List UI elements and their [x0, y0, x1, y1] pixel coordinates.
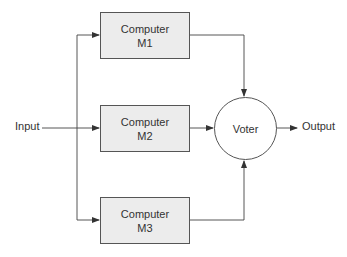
- computer-m2-box: Computer M2: [100, 105, 190, 152]
- computer-m3-line2: M3: [137, 221, 152, 235]
- computer-m1-line1: Computer: [121, 22, 169, 36]
- computer-m2-line2: M2: [137, 129, 152, 143]
- computer-m3-line1: Computer: [121, 207, 169, 221]
- computer-m1-line2: M1: [137, 36, 152, 50]
- computer-m1-box: Computer M1: [100, 12, 190, 59]
- voter-circle: Voter: [214, 97, 277, 160]
- output-label: Output: [302, 120, 335, 132]
- voter-label: Voter: [233, 123, 259, 135]
- computer-m3-box: Computer M3: [100, 197, 190, 244]
- diagram-canvas: Input Computer M1 Computer M2 Computer M…: [0, 0, 347, 257]
- computer-m2-line1: Computer: [121, 115, 169, 129]
- input-label: Input: [15, 120, 39, 132]
